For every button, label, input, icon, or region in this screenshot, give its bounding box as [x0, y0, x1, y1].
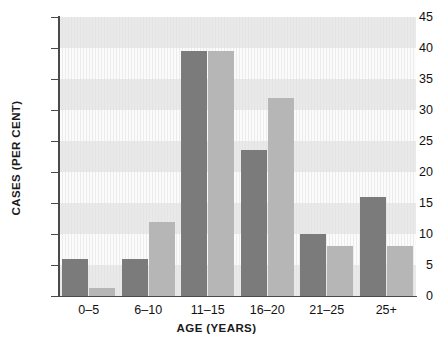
bar — [122, 259, 148, 296]
x-tick-label: 25+ — [376, 303, 397, 317]
x-tick-label: 21–25 — [309, 303, 344, 317]
y-tick-mark — [51, 265, 58, 266]
bar — [360, 197, 386, 296]
bar — [241, 150, 267, 296]
y-tick-label: 10 — [389, 227, 433, 241]
bar — [300, 234, 326, 296]
bar — [181, 51, 207, 296]
y-tick-label: 35 — [389, 72, 433, 86]
y-tick-mark — [51, 172, 58, 173]
bar — [208, 51, 234, 296]
y-tick-label: 45 — [389, 10, 433, 24]
x-tick-label: 6–10 — [134, 303, 162, 317]
y-tick-mark — [51, 203, 58, 204]
y-axis-title: CASES (PER CENT) — [10, 48, 22, 268]
y-tick-label: 15 — [389, 196, 433, 210]
y-tick-mark — [51, 141, 58, 142]
bar — [327, 246, 353, 296]
y-tick-mark — [51, 234, 58, 235]
y-tick-label: 40 — [389, 41, 433, 55]
bar — [149, 222, 175, 296]
y-tick-mark — [51, 48, 58, 49]
x-tick-label: 0–5 — [78, 303, 99, 317]
y-tick-label: 20 — [389, 165, 433, 179]
y-tick-mark — [51, 296, 58, 297]
x-tick-label: 11–15 — [191, 303, 225, 317]
bar — [62, 259, 88, 296]
bar-chart: CASES (PER CENT) 051015202530354045 0–56… — [0, 0, 433, 345]
y-axis-line — [58, 16, 60, 297]
y-tick-label: 5 — [389, 258, 433, 272]
y-tick-mark — [51, 110, 58, 111]
y-tick-label: 0 — [389, 289, 433, 303]
y-tick-mark — [51, 17, 58, 18]
bar — [268, 98, 294, 296]
x-axis-line — [58, 296, 417, 298]
plot-area — [59, 17, 416, 296]
y-tick-label: 30 — [389, 103, 433, 117]
x-tick-label: 16–20 — [250, 303, 285, 317]
x-axis-title: AGE (YEARS) — [0, 322, 433, 334]
y-tick-label: 25 — [389, 134, 433, 148]
y-tick-mark — [51, 79, 58, 80]
